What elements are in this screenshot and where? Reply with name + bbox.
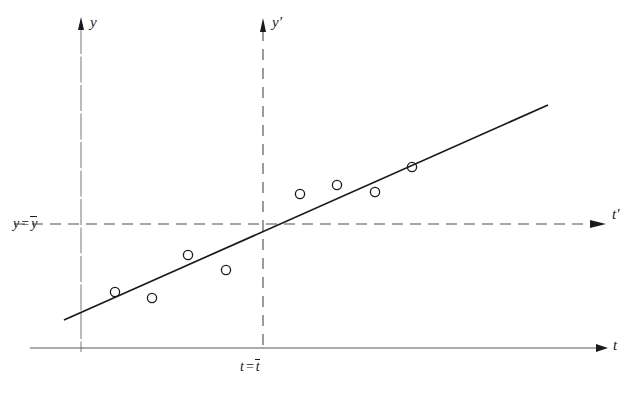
regression-figure: y y′ t′ t y=y t=t: [0, 0, 636, 397]
data-point: [295, 189, 304, 198]
y-prime-axis-arrowhead: [260, 18, 266, 32]
data-point: [221, 265, 230, 274]
regression-line: [64, 105, 548, 320]
y-mean-equals: =: [19, 216, 31, 231]
t-mean-label: t=t: [240, 360, 260, 374]
data-point: [370, 187, 379, 196]
t-prime-axis: [14, 220, 606, 228]
t-axis-arrowhead: [596, 344, 608, 352]
y-mean-label: y=y: [13, 217, 37, 231]
y-axis: [78, 17, 84, 352]
data-point: [332, 180, 341, 189]
data-point: [110, 287, 119, 296]
t-mean-equals: =: [244, 359, 256, 374]
y-prime-axis-label: y′: [272, 15, 282, 30]
y-mean-value: y: [31, 217, 37, 231]
y-axis-label: y: [90, 15, 97, 30]
figure-canvas: [0, 0, 636, 397]
t-mean-value: t: [256, 360, 260, 374]
y-axis-arrowhead: [78, 17, 84, 30]
data-point: [147, 293, 156, 302]
data-point: [183, 250, 192, 259]
y-prime-axis: [260, 18, 266, 352]
t-prime-axis-arrowhead: [590, 220, 606, 228]
t-axis: [30, 344, 608, 352]
t-prime-axis-label: t′: [612, 207, 619, 222]
t-axis-label: t: [613, 338, 617, 353]
